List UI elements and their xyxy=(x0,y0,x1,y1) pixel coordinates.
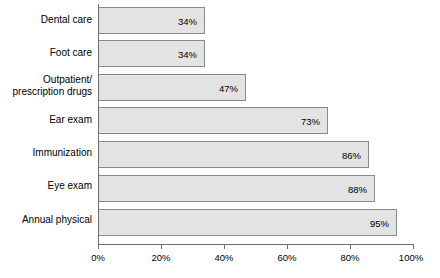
x-axis-tick-label: 0% xyxy=(91,252,105,263)
bar-value-label: 47% xyxy=(219,82,238,93)
category-label: Outpatient/ prescription drugs xyxy=(0,74,92,97)
bar-value-label: 73% xyxy=(301,115,320,126)
x-axis-tick-label: 80% xyxy=(340,252,359,263)
category-label: Dental care xyxy=(0,14,92,26)
bar-value-label: 88% xyxy=(348,183,367,194)
bar-chart: Dental care Foot care Outpatient/ prescr… xyxy=(0,0,440,278)
bar[interactable] xyxy=(98,209,397,236)
category-label: Annual physical xyxy=(0,214,92,226)
bar[interactable] xyxy=(98,107,328,134)
bar[interactable] xyxy=(98,141,369,168)
category-label: Immunization xyxy=(0,147,92,159)
x-axis-tick-label: 40% xyxy=(214,252,233,263)
bar[interactable] xyxy=(98,175,375,202)
bar-row: 95% xyxy=(98,209,413,236)
bar-row: 88% xyxy=(98,175,413,202)
x-axis-tick xyxy=(98,244,99,249)
x-axis-tick xyxy=(350,244,351,249)
bar-value-label: 95% xyxy=(370,217,389,228)
bar-value-label: 86% xyxy=(342,149,361,160)
category-label: Ear exam xyxy=(0,114,92,126)
bar-row: 86% xyxy=(98,141,413,168)
category-label: Eye exam xyxy=(0,180,92,192)
bar-value-label: 34% xyxy=(178,48,197,59)
bar-value-label: 34% xyxy=(178,15,197,26)
x-axis-tick-label: 20% xyxy=(151,252,170,263)
bar-row: 34% xyxy=(98,40,413,67)
plot-area: 34% 34% 47% 73% 86% 88% 95% xyxy=(98,0,413,244)
y-axis-line xyxy=(98,4,99,245)
x-axis-tick xyxy=(287,244,288,249)
bar-row: 73% xyxy=(98,107,413,134)
bar-row: 34% xyxy=(98,7,413,34)
x-axis-line xyxy=(98,244,414,245)
x-axis-tick xyxy=(161,244,162,249)
x-axis-tick xyxy=(224,244,225,249)
category-label: Foot care xyxy=(0,47,92,59)
x-axis-tick-label: 60% xyxy=(277,252,296,263)
x-axis-tick xyxy=(413,244,414,249)
category-axis-labels: Dental care Foot care Outpatient/ prescr… xyxy=(0,0,92,244)
bar-row: 47% xyxy=(98,74,413,101)
x-axis-tick-label: 100% xyxy=(399,252,423,263)
